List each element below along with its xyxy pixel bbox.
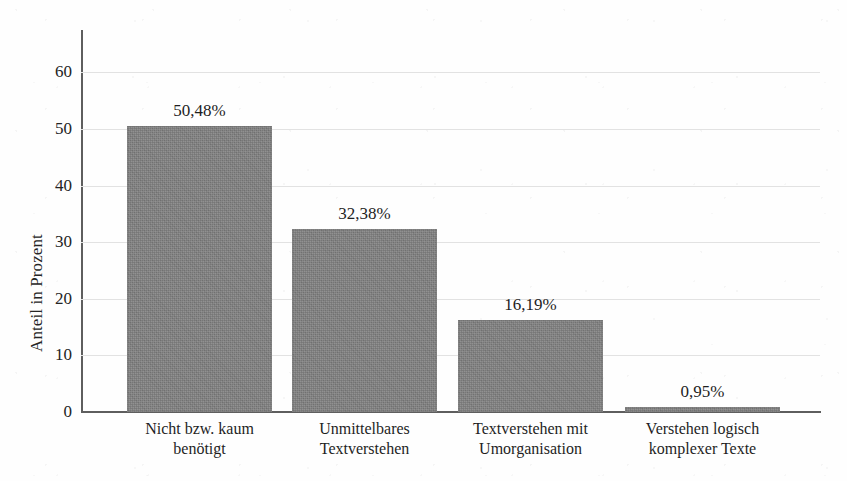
x-category-label-line: Nicht bzw. kaum: [109, 419, 290, 439]
y-tick-label-10: 10: [55, 345, 72, 365]
x-category-label-line: Textverstehen: [274, 439, 455, 459]
x-category-label-line: benötigt: [109, 439, 290, 459]
y-tick-label-30: 30: [55, 232, 72, 252]
x-category-label-2: UnmittelbaresTextverstehen: [274, 419, 455, 459]
bar-2[interactable]: [292, 229, 437, 412]
x-category-label-3: Textverstehen mitUmorganisation: [440, 419, 621, 459]
bar-4[interactable]: [625, 407, 780, 412]
y-tick-label-20: 20: [55, 289, 72, 309]
plot-area: 0102030405060 50,48%32,38%16,19%0,95%: [81, 44, 820, 412]
bar-value-label-3: 16,19%: [458, 295, 603, 315]
bar-3[interactable]: [458, 320, 603, 412]
gridline-60: [81, 72, 820, 73]
bar-value-label-4: 0,95%: [625, 382, 780, 402]
x-category-label-line: Umorganisation: [440, 439, 621, 459]
x-category-label-line: Textverstehen mit: [440, 419, 621, 439]
bar-chart-figure: Anteil in Prozent 0102030405060 50,48%32…: [0, 0, 847, 481]
bar-value-label-1: 50,48%: [127, 101, 272, 121]
x-category-label-4: Verstehen logischkomplexer Texte: [607, 419, 798, 459]
x-category-label-1: Nicht bzw. kaumbenötigt: [109, 419, 290, 459]
y-tick-label-60: 60: [55, 62, 72, 82]
x-category-label-line: Unmittelbares: [274, 419, 455, 439]
y-tick-label-50: 50: [55, 119, 72, 139]
y-tick-label-40: 40: [55, 176, 72, 196]
y-tick-label-0: 0: [64, 402, 73, 422]
bar-1[interactable]: [127, 126, 272, 412]
x-category-label-line: komplexer Texte: [607, 439, 798, 459]
y-axis-title: Anteil in Prozent: [27, 52, 53, 352]
bar-value-label-2: 32,38%: [292, 204, 437, 224]
x-category-label-line: Verstehen logisch: [607, 419, 798, 439]
